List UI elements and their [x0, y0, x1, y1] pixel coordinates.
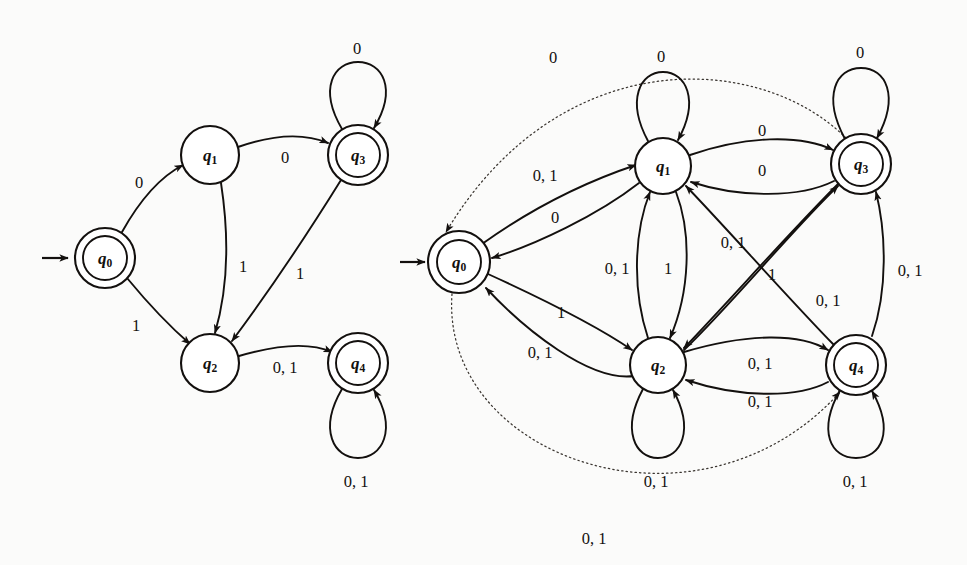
edge-label-right-3: 0, 1 [528, 343, 553, 362]
edge-label-right-1: 0 [551, 208, 559, 227]
edge-label-left-1: 1 [132, 316, 140, 335]
edge-label-right-13: 1 [768, 265, 776, 284]
edge-label-right-2: 1 [557, 303, 565, 322]
self-loop-right-q2 [632, 389, 684, 458]
node-left-q2[interactable]: q2 [181, 334, 239, 392]
edge-left-q0-q1 [122, 165, 183, 232]
edge-right-q4-q3 [872, 192, 884, 336]
edge-left-q1-q3 [238, 136, 328, 147]
edge-label-right-16: 0, 1 [748, 354, 773, 373]
node-right-q2[interactable]: q2 [630, 337, 686, 393]
edge-label-left-4: 1 [296, 264, 304, 283]
self-loop-right-q3 [833, 68, 888, 139]
edge-label-right-12: 0, 1 [721, 233, 746, 252]
self-loop-left-q3 [330, 62, 386, 129]
node-right-q0[interactable]: q0 [428, 231, 490, 293]
edge-label-right-6: 0 [856, 43, 864, 62]
self-loop-right-q1 [637, 72, 689, 141]
edge-left-q3-q2 [232, 180, 341, 341]
edge-label-right-17: 0, 1 [748, 392, 773, 411]
node-right-q3[interactable]: q3 [831, 134, 891, 194]
edge-label-right-19: 0, 1 [582, 529, 607, 548]
figure-root: q0 q1 q2 q3 q4 0 1 0 1 1 0 0, 1 0, 1 [0, 0, 967, 565]
node-right-q4[interactable]: q4 [826, 335, 886, 395]
left-automaton: q0 q1 q2 q3 q4 0 1 0 1 1 0 0, 1 0, 1 [42, 39, 388, 491]
edge-label-right-8: 0 [758, 121, 766, 140]
node-left-q0[interactable]: q0 [75, 228, 135, 288]
node-left-q4[interactable]: q4 [328, 333, 388, 393]
edge-right-q1-q2 [670, 192, 687, 338]
edge-label-left-3: 1 [239, 257, 247, 276]
edge-label-right-5: 0, 1 [644, 472, 669, 491]
edge-label-left-6: 0, 1 [273, 358, 298, 377]
edge-label-right-4: 0 [657, 47, 665, 66]
edge-right-q3-q1 [691, 181, 834, 194]
edge-label-right-9: 0 [758, 161, 766, 180]
node-left-q1[interactable]: q1 [181, 126, 239, 184]
edge-label-right-0: 0, 1 [533, 166, 558, 185]
automata-diagram-canvas: q0 q1 q2 q3 q4 0 1 0 1 1 0 0, 1 0, 1 [0, 0, 967, 565]
edge-label-left-5: 0 [353, 39, 361, 58]
node-left-q3[interactable]: q3 [328, 125, 388, 185]
right-automaton: q0 q1 q2 q3 q4 0, 1 0 1 0, 1 0 0, 1 0 0,… [400, 43, 922, 548]
edge-right-q1-q3 [690, 139, 833, 155]
self-loop-left-q4 [330, 389, 386, 458]
edge-label-right-18: 0 [549, 48, 557, 67]
edge-right-q2-q4 [684, 337, 828, 352]
edge-right-q2-q0 [486, 288, 634, 376]
edge-left-q2-q4 [239, 346, 332, 356]
edge-right-q2-q1 [637, 192, 650, 338]
self-loop-right-q4 [828, 390, 883, 458]
edge-label-right-10: 0, 1 [605, 259, 630, 278]
edge-label-left-0: 0 [135, 173, 143, 192]
edge-label-right-15: 0, 1 [898, 261, 923, 280]
edge-left-q1-q2 [215, 183, 226, 333]
edge-label-left-2: 0 [281, 148, 289, 167]
node-right-q1[interactable]: q1 [635, 138, 691, 194]
edge-label-right-11: 1 [664, 259, 672, 278]
edge-label-right-14: 0, 1 [816, 291, 841, 310]
edge-label-right-7: 0, 1 [843, 472, 868, 491]
edge-label-left-7: 0, 1 [344, 472, 369, 491]
